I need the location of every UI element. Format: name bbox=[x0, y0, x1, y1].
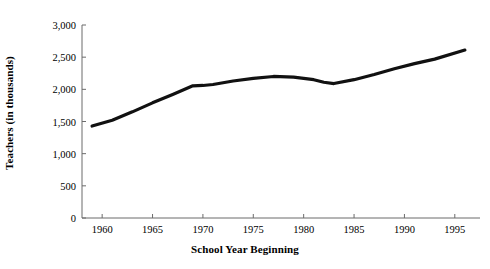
x-tick-label: 1970 bbox=[192, 224, 213, 235]
y-tick-label: 0 bbox=[20, 213, 76, 224]
y-tick-label: 3,000 bbox=[20, 20, 76, 31]
y-tick-label: 1,000 bbox=[20, 148, 76, 159]
x-axis-title: School Year Beginning bbox=[0, 243, 490, 255]
y-tick-label: 500 bbox=[20, 180, 76, 191]
y-tick-label: 2,000 bbox=[20, 84, 76, 95]
x-tick-label: 1980 bbox=[293, 224, 314, 235]
x-tick-label: 1985 bbox=[344, 224, 365, 235]
y-axis-title-text: Teachers (in thousands) bbox=[3, 56, 15, 170]
teachers-line-chart: Teachers (in thousands) School Year Begi… bbox=[0, 0, 490, 269]
x-tick-marks bbox=[102, 214, 455, 218]
y-tick-label: 1,500 bbox=[20, 116, 76, 127]
x-tick-label: 1995 bbox=[444, 224, 465, 235]
y-tick-label: 2,500 bbox=[20, 52, 76, 63]
axes bbox=[82, 25, 480, 218]
x-tick-label: 1975 bbox=[243, 224, 264, 235]
data-series-group bbox=[92, 50, 465, 126]
y-axis-title: Teachers (in thousands) bbox=[0, 0, 18, 225]
y-tick-marks bbox=[82, 25, 86, 218]
x-tick-label: 1990 bbox=[394, 224, 415, 235]
data-line-teachers bbox=[92, 50, 465, 126]
x-tick-label: 1960 bbox=[92, 224, 113, 235]
x-tick-label: 1965 bbox=[142, 224, 163, 235]
